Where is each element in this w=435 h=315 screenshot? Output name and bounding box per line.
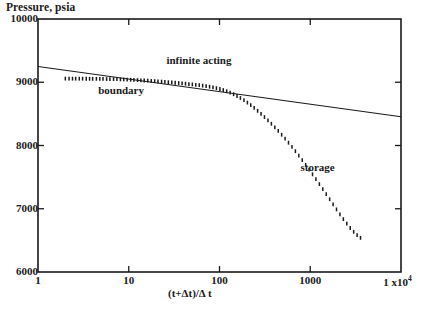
y-tick-label: 8000 — [0, 139, 38, 151]
annotation-infinite-acting: infinite acting — [166, 54, 231, 66]
data-point-group — [65, 77, 360, 240]
y-tick-label: 6000 — [0, 265, 38, 277]
annotation-boundary: boundary — [98, 84, 144, 96]
x-tick-label: 1 x104 — [383, 274, 412, 288]
y-tick-label: 7000 — [0, 202, 38, 214]
annotation-storage: storage — [300, 161, 334, 173]
y-tick-label: 9000 — [0, 75, 38, 87]
plot-canvas — [0, 0, 435, 315]
x-tick-label: 1 — [35, 274, 41, 286]
x-axis-title: (t+Δt)/Δ t — [168, 287, 212, 299]
x-tick-label: 100 — [211, 274, 228, 286]
y-tick-label: 10000 — [0, 12, 38, 24]
x-tick-label: 1000 — [299, 274, 321, 286]
x-tick-label: 10 — [123, 274, 134, 286]
semilog-straight-line — [38, 66, 401, 116]
pressure-buildup-chart: Pressure, psia (t+Δt)/Δ t 60007000800090… — [0, 0, 435, 315]
